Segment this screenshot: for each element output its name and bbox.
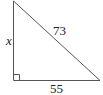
hypotenuse xyxy=(14,1,101,81)
vertical-leg-label: x xyxy=(5,33,12,48)
right-triangle-diagram: x 73 55 xyxy=(0,0,103,95)
triangle xyxy=(14,1,101,81)
horizontal-leg-label: 55 xyxy=(50,81,63,95)
hypotenuse-label: 73 xyxy=(53,23,66,38)
right-angle-marker xyxy=(14,75,20,81)
